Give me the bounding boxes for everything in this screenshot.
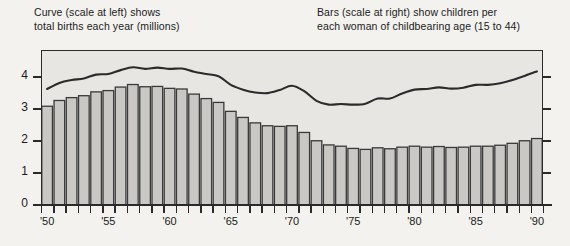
x-tick bbox=[139, 206, 140, 213]
x-tick bbox=[543, 206, 544, 213]
axis-baseline bbox=[40, 204, 552, 206]
x-tick bbox=[457, 206, 458, 213]
y-tick-right bbox=[542, 140, 551, 142]
chart-figure: Curve (scale at left) shows total births… bbox=[0, 0, 570, 246]
y-tick-label-left: 0 bbox=[8, 196, 28, 210]
x-tick bbox=[506, 206, 507, 213]
x-tick-label: '90 bbox=[522, 215, 552, 227]
y-tick-left bbox=[33, 108, 42, 110]
x-tick-label: '60 bbox=[155, 215, 185, 227]
x-tick bbox=[494, 206, 495, 213]
caption-left-curve: Curve (scale at left) shows total births… bbox=[34, 6, 180, 33]
y-tick-left bbox=[33, 172, 42, 174]
x-tick bbox=[200, 206, 201, 213]
caption-right-bars: Bars (scale at right) show children per … bbox=[317, 6, 520, 33]
x-tick-label: '75 bbox=[338, 215, 368, 227]
x-tick bbox=[163, 206, 164, 213]
x-tick bbox=[396, 206, 397, 213]
x-tick bbox=[127, 206, 128, 213]
x-tick bbox=[53, 206, 54, 213]
y-tick-left bbox=[33, 140, 42, 142]
x-tick bbox=[176, 206, 177, 213]
x-tick bbox=[41, 206, 42, 213]
y-tick-right bbox=[542, 108, 551, 110]
x-tick bbox=[531, 206, 532, 213]
x-tick bbox=[323, 206, 324, 213]
x-tick bbox=[347, 206, 348, 213]
y-tick-left bbox=[33, 76, 42, 78]
x-tick bbox=[384, 206, 385, 213]
y-tick-label-left: 2 bbox=[8, 132, 28, 146]
x-tick bbox=[249, 206, 250, 213]
y-tick-label-left: 4 bbox=[8, 68, 28, 82]
x-tick bbox=[286, 206, 287, 213]
x-tick bbox=[482, 206, 483, 213]
x-tick bbox=[212, 206, 213, 213]
x-tick bbox=[519, 206, 520, 213]
x-tick bbox=[359, 206, 360, 213]
x-tick bbox=[114, 206, 115, 213]
x-tick bbox=[298, 206, 299, 213]
x-tick bbox=[151, 206, 152, 213]
plot-frame bbox=[41, 50, 543, 205]
x-tick bbox=[445, 206, 446, 213]
y-tick-right bbox=[542, 172, 551, 174]
x-tick-label: '70 bbox=[277, 215, 307, 227]
y-tick-right bbox=[542, 76, 551, 78]
x-tick bbox=[102, 206, 103, 213]
x-tick bbox=[225, 206, 226, 213]
x-tick bbox=[237, 206, 238, 213]
x-tick bbox=[372, 206, 373, 213]
plot-area bbox=[41, 50, 543, 205]
x-tick bbox=[188, 206, 189, 213]
x-tick bbox=[470, 206, 471, 213]
x-tick-label: '80 bbox=[399, 215, 429, 227]
x-tick bbox=[421, 206, 422, 213]
x-tick bbox=[433, 206, 434, 213]
y-tick-label-left: 3 bbox=[8, 100, 28, 114]
x-tick-label: '65 bbox=[216, 215, 246, 227]
y-tick-label-left: 1 bbox=[8, 164, 28, 178]
x-tick-label: '50 bbox=[32, 215, 62, 227]
x-tick-label: '55 bbox=[93, 215, 123, 227]
x-tick bbox=[335, 206, 336, 213]
x-tick bbox=[65, 206, 66, 213]
x-tick bbox=[78, 206, 79, 213]
x-tick bbox=[261, 206, 262, 213]
x-tick bbox=[90, 206, 91, 213]
x-tick bbox=[408, 206, 409, 213]
x-tick-label: '85 bbox=[461, 215, 491, 227]
x-tick bbox=[310, 206, 311, 213]
x-tick bbox=[274, 206, 275, 213]
